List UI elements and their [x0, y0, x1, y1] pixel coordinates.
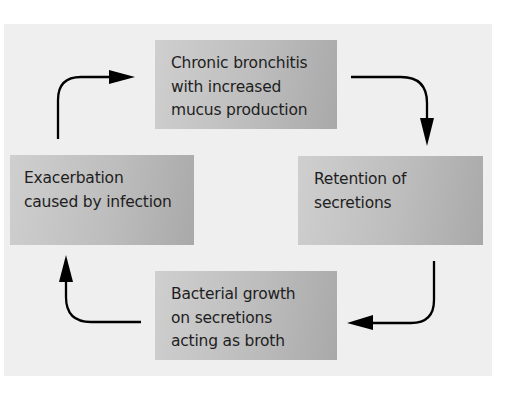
cycle-arrows — [0, 0, 505, 394]
arrow-right-to-bottom-icon — [347, 261, 434, 330]
arrow-bottom-to-left-icon — [59, 255, 141, 322]
arrow-top-to-right-icon — [351, 77, 434, 146]
arrow-left-to-top-icon — [58, 70, 135, 139]
